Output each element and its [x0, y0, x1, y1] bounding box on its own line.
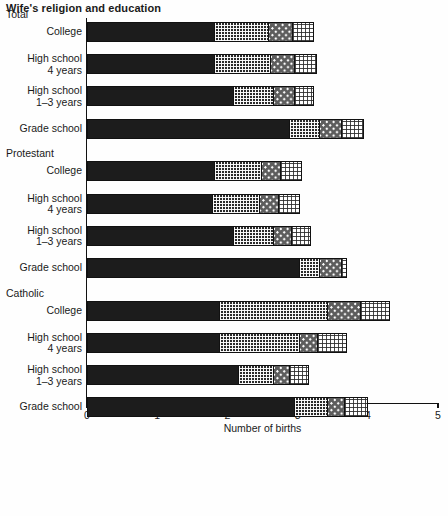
- category-label: College: [46, 305, 82, 317]
- category-label: Grade school: [20, 262, 82, 274]
- segment-by-interview: [88, 366, 238, 384]
- segment-minimum: [233, 227, 272, 245]
- segment-minimum: [299, 259, 319, 277]
- segment-by-interview: [88, 87, 233, 105]
- bar-catholic-grade-school: [87, 397, 368, 417]
- segment-by-interview: [88, 23, 214, 41]
- segment-most-likely: [327, 398, 344, 416]
- category-label: Grade school: [20, 401, 82, 413]
- category-label: 1–3 years: [36, 236, 82, 248]
- segment-maximum: [317, 334, 348, 352]
- segment-maximum: [289, 366, 309, 384]
- segment-most-likely: [273, 87, 293, 105]
- bar-protestant-high-school-4-years: [87, 194, 300, 214]
- segment-by-interview: [88, 195, 212, 213]
- segment-by-interview: [88, 120, 289, 138]
- segment-minimum: [219, 302, 326, 320]
- x-axis-tick: [437, 403, 438, 408]
- segment-by-interview: [88, 398, 294, 416]
- segment-by-interview: [88, 302, 219, 320]
- bar-total-grade-school: [87, 119, 364, 139]
- bar-total-high-school-1-3-years: [87, 86, 314, 106]
- segment-maximum: [294, 55, 317, 73]
- x-axis-tick-label: 5: [426, 409, 448, 421]
- segment-maximum: [280, 162, 302, 180]
- segment-maximum: [344, 398, 368, 416]
- segment-by-interview: [88, 55, 214, 73]
- category-label: 4 years: [48, 65, 82, 77]
- bar-catholic-college: [87, 301, 390, 321]
- segment-maximum: [360, 302, 390, 320]
- segment-maximum: [341, 259, 347, 277]
- bar-protestant-grade-school: [87, 258, 347, 278]
- segment-by-interview: [88, 162, 214, 180]
- category-label: College: [46, 165, 82, 177]
- category-label: High school: [27, 53, 82, 65]
- bar-catholic-high-school-1-3-years: [87, 365, 309, 385]
- segment-minimum: [214, 55, 270, 73]
- x-axis-label: Number of births: [87, 422, 438, 434]
- segment-by-interview: [88, 334, 219, 352]
- segment-most-likely: [327, 302, 360, 320]
- category-label: 1–3 years: [36, 376, 82, 388]
- segment-most-likely: [268, 23, 291, 41]
- bar-protestant-college: [87, 161, 302, 181]
- segment-minimum: [233, 87, 273, 105]
- segment-most-likely: [319, 259, 341, 277]
- bar-chart: Wife's religion and education Number of …: [0, 0, 448, 516]
- chart-legend: By interview Total expected Minimum Most…: [0, 437, 448, 516]
- segment-minimum: [289, 120, 318, 138]
- category-label: High school: [27, 364, 82, 376]
- segment-minimum: [238, 366, 273, 384]
- segment-minimum: [219, 334, 298, 352]
- segment-most-likely: [319, 120, 341, 138]
- segment-most-likely: [261, 162, 280, 180]
- segment-maximum: [292, 23, 315, 41]
- group-label-catholic: Catholic: [6, 287, 44, 299]
- segment-minimum: [214, 23, 268, 41]
- segment-minimum: [212, 195, 260, 213]
- group-label-protestant: Protestant: [6, 147, 54, 159]
- category-label: 4 years: [48, 204, 82, 216]
- segment-maximum: [291, 227, 311, 245]
- segment-maximum: [294, 87, 314, 105]
- segment-most-likely: [270, 55, 294, 73]
- group-label-total: Total: [6, 8, 28, 20]
- chart-title: Wife's religion and education: [6, 2, 161, 14]
- segment-maximum: [341, 120, 363, 138]
- segment-most-likely: [273, 227, 291, 245]
- bar-protestant-high-school-1-3-years: [87, 226, 311, 246]
- category-label: 4 years: [48, 343, 82, 355]
- bar-catholic-high-school-4-years: [87, 333, 347, 353]
- bar-total-high-school-4-years: [87, 54, 317, 74]
- segment-most-likely: [273, 366, 289, 384]
- category-label: 1–3 years: [36, 97, 82, 109]
- segment-maximum: [278, 195, 300, 213]
- segment-by-interview: [88, 259, 299, 277]
- bar-total-college: [87, 22, 314, 42]
- category-label: College: [46, 26, 82, 38]
- segment-minimum: [294, 398, 327, 416]
- segment-by-interview: [88, 227, 233, 245]
- category-label: Grade school: [20, 123, 82, 135]
- segment-minimum: [214, 162, 260, 180]
- segment-most-likely: [259, 195, 278, 213]
- segment-most-likely: [299, 334, 317, 352]
